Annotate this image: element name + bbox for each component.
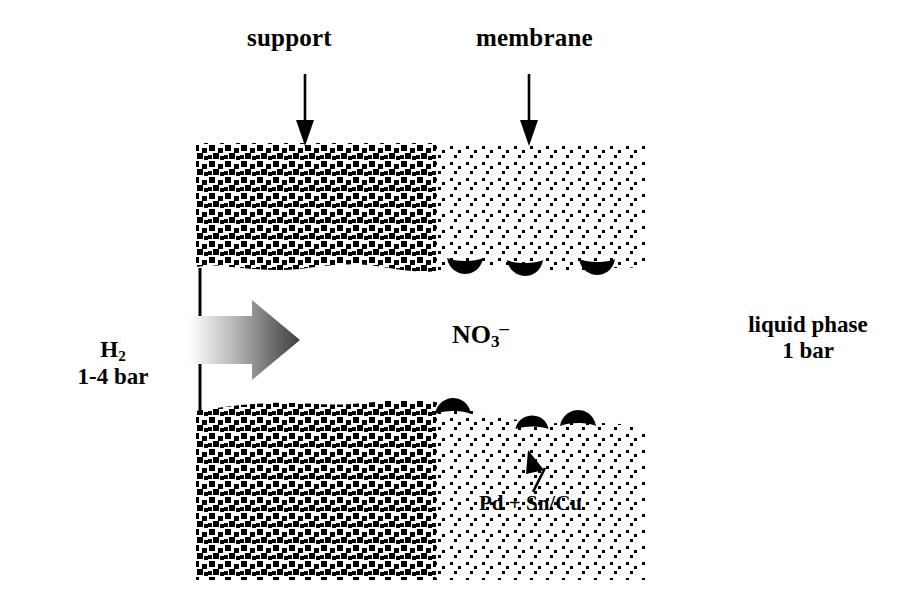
nitrate-label: NO3– xyxy=(452,318,509,351)
support-region-lower xyxy=(196,395,436,585)
membrane-region-upper xyxy=(436,140,646,280)
catalyst-composition-label: Pd + Sn/Cu xyxy=(479,492,582,516)
hydrogen-flow-arrow-icon xyxy=(188,300,300,380)
hydrogen-feed-label: H2 1-4 bar xyxy=(38,337,188,390)
liquid-phase-text: liquid phase xyxy=(748,312,868,337)
hydrogen-symbol: H xyxy=(100,337,118,362)
hydrogen-subscript: 2 xyxy=(118,347,126,364)
nitrate-symbol: NO xyxy=(452,320,491,349)
support-pointer-arrow-icon xyxy=(296,74,314,146)
membrane-label: membrane xyxy=(476,24,593,52)
liquid-phase-label: liquid phase 1 bar xyxy=(718,312,898,364)
membrane-pointer-arrow-icon xyxy=(520,74,538,146)
hydrogen-formula: H2 xyxy=(100,337,125,362)
hydrogen-pressure: 1-4 bar xyxy=(78,364,149,389)
figure-canvas: support membrane H2 1-4 bar NO3– liquid … xyxy=(0,0,912,607)
support-label: support xyxy=(247,24,332,52)
upper-porous-slab xyxy=(196,140,646,280)
diagram-svg xyxy=(0,0,912,607)
liquid-phase-pressure: 1 bar xyxy=(782,338,834,363)
support-region-upper xyxy=(196,140,436,280)
nitrate-charge: – xyxy=(500,317,509,338)
lower-porous-slab xyxy=(196,395,646,585)
nitrate-subscript: 3 xyxy=(491,332,500,351)
